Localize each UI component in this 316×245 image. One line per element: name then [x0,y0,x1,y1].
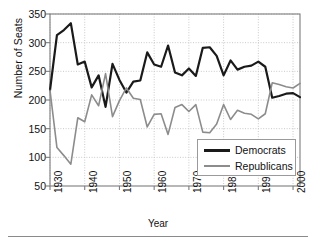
x-tick-2000: 2000 [297,171,307,193]
y-tick-350: 350 [12,9,46,20]
y-axis-tick-labels: 35030025020015010050 [10,0,46,245]
chart-plot-area [0,0,316,245]
y-tick-250: 250 [12,66,46,77]
chart-figure: Number of Seats 35030025020015010050 193… [0,0,316,245]
x-tick-1930: 1930 [54,171,64,193]
y-tick-300: 300 [12,38,46,49]
x-tick-1950: 1950 [123,171,133,193]
x-axis-label: Year [0,218,316,229]
legend-label-democrats: Democrats [235,145,286,156]
y-tick-200: 200 [12,95,46,106]
y-tick-50: 50 [12,181,46,192]
y-tick-100: 100 [12,152,46,163]
bottom-divider [8,236,308,237]
x-tick-1940: 1940 [89,171,99,193]
legend-item-democrats: Democrats [204,143,286,157]
legend-label-republicans: Republicans [235,161,293,172]
chart-legend: Democrats Republicans [197,139,296,176]
x-tick-1960: 1960 [158,171,168,193]
y-tick-150: 150 [12,124,46,135]
legend-swatch-republicans [204,165,230,167]
legend-swatch-democrats [204,149,230,152]
legend-item-republicans: Republicans [204,159,293,173]
